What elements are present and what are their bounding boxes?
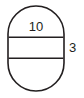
geometry-figure: 10 3 bbox=[0, 0, 84, 98]
band-height-dimension-label: 3 bbox=[69, 40, 76, 55]
width-dimension-label: 10 bbox=[29, 19, 43, 34]
figure-canvas: 10 3 bbox=[0, 0, 84, 98]
